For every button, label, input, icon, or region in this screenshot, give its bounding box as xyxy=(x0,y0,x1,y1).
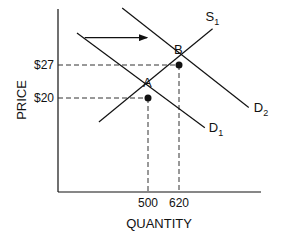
curve-d2 xyxy=(122,8,249,107)
x-tick-label: 500 xyxy=(138,196,158,210)
curve-label-d1: D1 xyxy=(209,120,223,138)
x-axis-title: QUANTITY xyxy=(126,216,192,231)
point-label-b: B xyxy=(174,42,183,57)
curve-label-d2: D2 xyxy=(254,100,268,118)
equilibrium-point-a xyxy=(145,95,152,102)
equilibrium-point-b xyxy=(176,62,183,69)
curve-d1 xyxy=(77,33,205,128)
point-label-a: A xyxy=(143,75,152,90)
y-tick-label: $20 xyxy=(34,91,54,105)
curve-label-s1: S1 xyxy=(206,9,220,27)
supply-demand-chart: S1D1D2AB500620$27$20 QUANTITY PRICE xyxy=(0,0,297,240)
x-tick-label: 620 xyxy=(169,196,189,210)
curve-s1 xyxy=(99,29,213,122)
y-axis-title: PRICE xyxy=(14,80,29,120)
y-tick-label: $27 xyxy=(34,58,54,72)
